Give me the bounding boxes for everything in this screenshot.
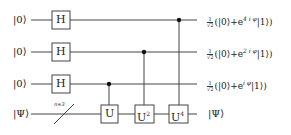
hadamard-gate-q0: H [56,15,66,25]
input-label-q1: |0⟩ [13,47,27,57]
input-label-q2: |0⟩ [13,79,27,89]
output-state-psi: |Ψ⟩ [208,109,224,119]
controlled-u2-gate: U2 [137,109,150,123]
output-state-q0: 1√2(|0⟩+e4 i φ|1⟩) [207,14,273,28]
output-state-q2: 1√2(|0⟩+ei φ|1⟩) [207,78,267,92]
controlled-u-gate: U [105,109,114,119]
hadamard-gate-q2: H [56,79,66,89]
hadamard-gate-q1: H [56,47,66,57]
input-label-psi: |Ψ⟩ [13,109,29,119]
input-label-q0: |0⟩ [13,15,27,25]
output-state-q1: 1√2(|0⟩+e2 i φ|1⟩) [207,46,273,60]
controlled-u4-gate: U4 [171,109,184,123]
register-size-annotation: n=3 [54,99,65,109]
